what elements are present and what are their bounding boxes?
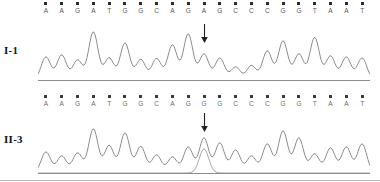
base-tick-icon bbox=[60, 2, 63, 5]
chromatogram-panel-I-1: I-1 AAGATGGCAGAGCCCGGTAAT bbox=[0, 0, 380, 91]
base-tick-icon bbox=[250, 95, 253, 98]
base-letter: C bbox=[249, 100, 254, 108]
base-letter: G bbox=[138, 100, 143, 108]
base-letter: A bbox=[44, 100, 48, 108]
base-tick-icon bbox=[76, 2, 79, 5]
base-letter: T bbox=[107, 100, 111, 108]
base-call-16: G bbox=[291, 2, 307, 26]
base-letter: C bbox=[233, 100, 238, 108]
base-letter: G bbox=[186, 100, 191, 108]
base-letter: G bbox=[122, 100, 127, 108]
chromatogram-figure: I-1 AAGATGGCAGAGCCCGGTAAT II-3 AAGATGGCA… bbox=[0, 0, 380, 182]
basecall-strip-I-1: AAGATGGCAGAGCCCGGTAAT bbox=[38, 2, 370, 26]
base-letter: C bbox=[265, 7, 270, 15]
base-letter: C bbox=[154, 7, 159, 15]
trace-line-primary bbox=[38, 129, 370, 168]
base-call-14: C bbox=[259, 2, 275, 26]
base-call-8: A bbox=[165, 2, 181, 26]
base-call-6: G bbox=[133, 2, 149, 26]
base-call-6: G bbox=[133, 95, 149, 119]
base-call-15: G bbox=[275, 95, 291, 119]
base-call-9: G bbox=[180, 2, 196, 26]
base-tick-icon bbox=[203, 95, 206, 98]
base-tick-icon bbox=[250, 2, 253, 5]
base-tick-icon bbox=[92, 95, 95, 98]
base-tick-icon bbox=[218, 2, 221, 5]
base-letter: G bbox=[202, 100, 207, 108]
base-call-12: C bbox=[228, 95, 244, 119]
base-tick-icon bbox=[187, 2, 190, 5]
base-tick-icon bbox=[361, 2, 364, 5]
base-tick-icon bbox=[123, 95, 126, 98]
base-letter: C bbox=[154, 100, 159, 108]
sample-label-II-3: II-3 bbox=[4, 133, 38, 145]
base-call-10: A bbox=[196, 2, 212, 26]
base-letter: C bbox=[233, 7, 238, 15]
base-letter: G bbox=[296, 100, 301, 108]
base-call-16: G bbox=[291, 95, 307, 119]
base-call-8: A bbox=[165, 95, 181, 119]
base-call-17: T bbox=[307, 95, 323, 119]
base-tick-icon bbox=[187, 95, 190, 98]
base-letter: T bbox=[360, 7, 364, 15]
base-letter: G bbox=[296, 7, 301, 15]
base-letter: A bbox=[344, 7, 348, 15]
base-tick-icon bbox=[266, 2, 269, 5]
base-tick-icon bbox=[139, 2, 142, 5]
base-call-18: A bbox=[323, 2, 339, 26]
base-call-5: G bbox=[117, 95, 133, 119]
base-tick-icon bbox=[44, 95, 47, 98]
base-letter: A bbox=[60, 7, 64, 15]
base-tick-icon bbox=[108, 2, 111, 5]
base-tick-icon bbox=[266, 95, 269, 98]
base-letter: G bbox=[281, 100, 286, 108]
base-letter: A bbox=[44, 7, 48, 15]
base-tick-icon bbox=[139, 95, 142, 98]
chromatogram-panel-II-3: II-3 AAGATGGCAGGGCCCGGTAAT bbox=[0, 91, 380, 182]
base-letter: T bbox=[107, 7, 111, 15]
base-call-2: G bbox=[70, 2, 86, 26]
base-tick-icon bbox=[297, 2, 300, 5]
base-letter: T bbox=[313, 7, 317, 15]
base-tick-icon bbox=[108, 95, 111, 98]
base-call-12: C bbox=[228, 2, 244, 26]
base-letter: G bbox=[75, 100, 80, 108]
base-call-1: A bbox=[54, 2, 70, 26]
trace-baseline-II-3 bbox=[38, 173, 370, 174]
base-call-19: A bbox=[338, 2, 354, 26]
base-letter: T bbox=[313, 100, 317, 108]
base-tick-icon bbox=[203, 2, 206, 5]
trace-baseline-I-1 bbox=[38, 80, 370, 81]
base-tick-icon bbox=[60, 95, 63, 98]
base-letter: C bbox=[249, 7, 254, 15]
base-tick-icon bbox=[76, 95, 79, 98]
base-call-20: T bbox=[354, 2, 370, 26]
base-call-15: G bbox=[275, 2, 291, 26]
variant-arrow-I-1 bbox=[199, 24, 210, 44]
base-letter: A bbox=[344, 100, 348, 108]
base-tick-icon bbox=[171, 95, 174, 98]
base-tick-icon bbox=[282, 95, 285, 98]
base-letter: A bbox=[170, 7, 174, 15]
base-tick-icon bbox=[123, 2, 126, 5]
base-call-11: G bbox=[212, 2, 228, 26]
base-tick-icon bbox=[155, 95, 158, 98]
base-letter: G bbox=[122, 7, 127, 15]
base-tick-icon bbox=[155, 2, 158, 5]
base-letter: G bbox=[217, 7, 222, 15]
base-call-19: A bbox=[338, 95, 354, 119]
base-call-1: A bbox=[54, 95, 70, 119]
base-letter: G bbox=[217, 100, 222, 108]
base-tick-icon bbox=[313, 95, 316, 98]
base-letter: G bbox=[138, 7, 143, 15]
base-call-17: T bbox=[307, 2, 323, 26]
base-call-18: A bbox=[323, 95, 339, 119]
base-call-0: A bbox=[38, 95, 54, 119]
base-call-3: A bbox=[85, 2, 101, 26]
base-tick-icon bbox=[44, 2, 47, 5]
base-tick-icon bbox=[218, 95, 221, 98]
base-call-9: G bbox=[180, 95, 196, 119]
base-tick-icon bbox=[282, 2, 285, 5]
base-letter: A bbox=[60, 100, 64, 108]
base-call-11: G bbox=[212, 95, 228, 119]
